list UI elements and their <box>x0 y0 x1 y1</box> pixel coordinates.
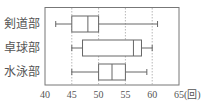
box-0 <box>56 16 158 32</box>
x-tick-label: 40 <box>40 89 50 100</box>
x-tick-label: 45 <box>67 89 77 100</box>
x-tick-label: 65(回) <box>174 89 201 101</box>
boxplot-chart: 剣道部卓球部水泳部 404550556065(回) <box>0 0 214 107</box>
box-2 <box>72 64 147 80</box>
category-labels: 剣道部卓球部水泳部 <box>4 16 40 79</box>
category-label: 卓球部 <box>4 40 40 55</box>
x-tick-labels: 404550556065(回) <box>40 89 201 101</box>
category-label: 水泳部 <box>4 64 40 79</box>
iqr-box <box>83 40 142 56</box>
iqr-box <box>72 16 99 32</box>
x-tick-label: 55 <box>120 89 130 100</box>
box-group <box>56 16 158 80</box>
box-1 <box>72 40 152 56</box>
x-tick-label: 50 <box>94 89 104 100</box>
x-tick-label: 60 <box>147 89 157 100</box>
category-label: 剣道部 <box>4 16 40 31</box>
